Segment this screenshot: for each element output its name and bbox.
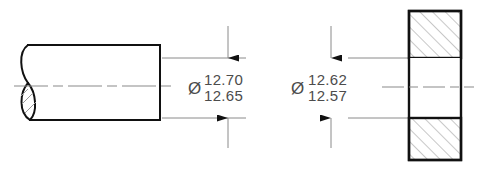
shaft-lower-limit: 12.65 (204, 87, 243, 104)
section-hatch-upper (409, 11, 461, 58)
drawing-canvas: Ø 12.70 12.65 Ø 12.62 12.57 (0, 0, 480, 170)
bore-upper-limit: 12.62 (308, 71, 347, 88)
diameter-symbol: Ø (291, 79, 304, 98)
technical-drawing: Ø 12.70 12.65 Ø 12.62 12.57 (0, 0, 480, 170)
bore-opening (409, 58, 461, 118)
shaft-diameter-dimension[interactable]: Ø 12.70 12.65 (162, 26, 246, 148)
shaft-view (14, 45, 172, 120)
diameter-symbol: Ø (188, 79, 201, 98)
break-line-upper (21, 45, 28, 83)
break-line-lower (28, 83, 35, 120)
shaft-outline (28, 45, 160, 120)
bore-section-view (382, 11, 474, 160)
break-line-lens (22, 83, 31, 120)
section-hatch-lower (409, 118, 461, 160)
shaft-upper-limit: 12.70 (204, 71, 243, 88)
bore-lower-limit: 12.57 (308, 87, 347, 104)
